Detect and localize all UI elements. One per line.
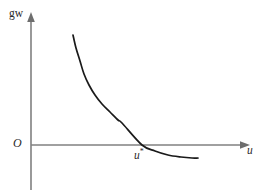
- y-axis-arrowhead: [27, 12, 35, 22]
- x-axis-label: u: [247, 145, 253, 157]
- plot-canvas: [0, 0, 261, 196]
- gw-curve: [73, 35, 198, 158]
- figure-container: gw O u u*: [0, 0, 261, 196]
- y-axis-label: gw: [9, 8, 23, 20]
- equilibrium-label-superscript: *: [140, 147, 144, 156]
- equilibrium-label: u*: [134, 148, 144, 161]
- origin-label: O: [13, 137, 22, 149]
